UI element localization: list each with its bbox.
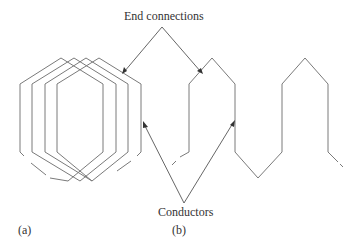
end-connections-label: End connections — [124, 9, 204, 24]
end-connections-arrows — [122, 27, 203, 74]
panel-b-label: (b) — [172, 223, 186, 238]
panel-a-label: (a) — [18, 223, 31, 238]
wave-lead-in-dashed — [172, 152, 189, 165]
lap-coils — [20, 58, 141, 181]
wave-winding — [172, 58, 343, 178]
conductors-label: Conductors — [158, 205, 213, 220]
wave-path — [189, 58, 338, 178]
wave-lead-out-dashed — [340, 164, 343, 167]
